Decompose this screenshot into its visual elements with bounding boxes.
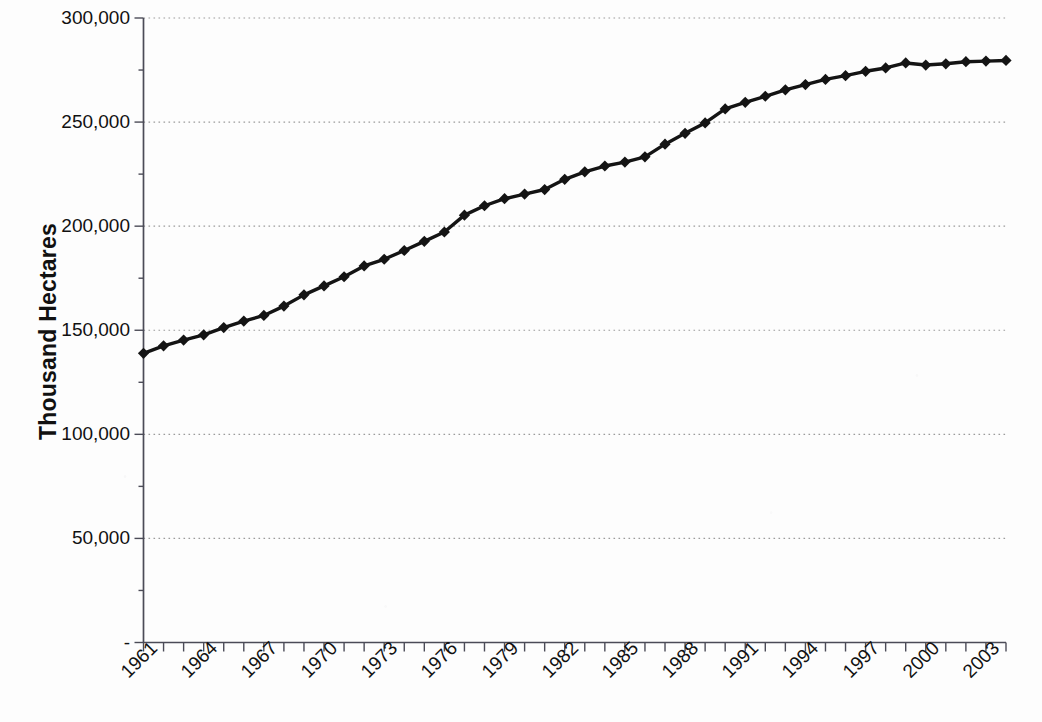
data-series-line [144,60,1007,353]
chart-canvas: Thousand Hectares -50,000100,000150,0002… [0,0,1042,722]
plot-area [0,0,1042,722]
gridlines [144,18,1007,538]
axis-ticks [135,18,1007,652]
